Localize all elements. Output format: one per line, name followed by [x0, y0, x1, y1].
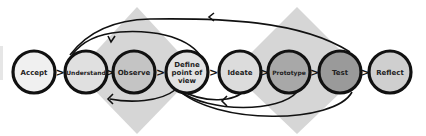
node-understand: Understand — [65, 51, 107, 93]
node-label: view — [178, 77, 197, 85]
node-label: Reflect — [376, 69, 404, 77]
chevron-right-icon: > — [156, 66, 165, 79]
node-define: Definepoint ofview — [166, 51, 208, 93]
node-accept: Accept — [13, 51, 55, 93]
node-label: point of — [172, 69, 204, 77]
chevron-right-icon: > — [55, 66, 64, 79]
left-edge-fragment — [0, 46, 3, 80]
node-label: Prototype — [272, 69, 306, 77]
node-label: Accept — [21, 69, 48, 77]
node-label: Ideate — [227, 69, 252, 77]
node-label: Test — [332, 69, 349, 77]
node-reflect: Reflect — [369, 51, 411, 93]
node-label: Understand — [66, 69, 106, 76]
arrowhead-icon — [222, 96, 227, 106]
node-label: Observe — [118, 69, 151, 77]
design-thinking-diagram: Accept>Understand>Observe>Definepoint of… — [0, 0, 426, 136]
node-observe: Observe — [113, 51, 155, 93]
node-prototype: Prototype — [268, 51, 310, 93]
chevron-right-icon: > — [209, 66, 218, 79]
node-label: Define — [174, 61, 200, 69]
node-ideate: Ideate — [219, 51, 261, 93]
node-test: Test — [319, 51, 361, 93]
